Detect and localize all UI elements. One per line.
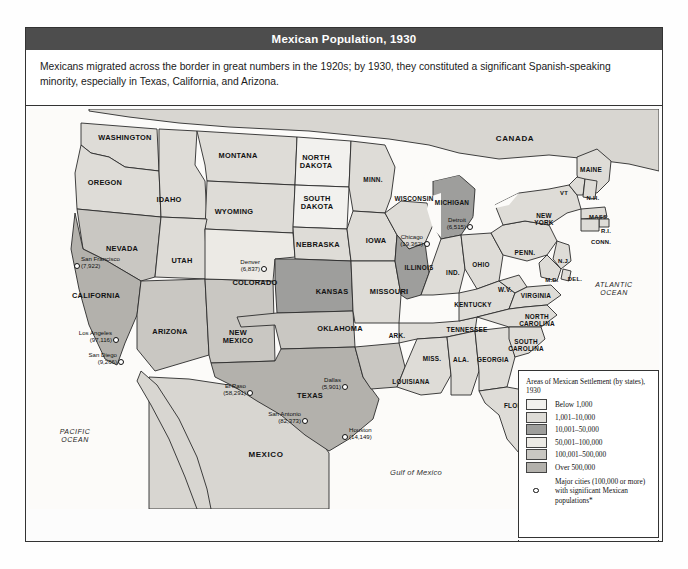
legend-class-label: Below 1,000	[555, 400, 592, 409]
city-label: Houston(14,149)	[349, 427, 372, 440]
city-population-text: (97,116)	[90, 336, 112, 343]
city-population-text: (19,362)	[400, 240, 423, 247]
city-label: Chicago(19,362)	[400, 234, 423, 247]
city-population-text: (9,266)	[98, 358, 117, 365]
legend-class-list: Below 1,0001,001–10,00010,001–50,00050,0…	[526, 399, 651, 473]
city-population-text: (6,515)	[447, 223, 466, 230]
city-label: Los Angeles(97,116)	[79, 330, 112, 343]
legend-row: 50,001–100,000	[526, 437, 651, 448]
legend-row: 1,001–10,000	[526, 412, 651, 423]
figure-page: Mexican Population, 1930 Mexicans migrat…	[0, 0, 688, 569]
legend-city-entry: Major cities (100,000 or more) with sign…	[526, 477, 651, 506]
city-dot-icon	[118, 359, 124, 365]
legend-swatch	[526, 424, 547, 435]
legend-swatch	[526, 399, 547, 410]
legend-class-label: 1,001–10,000	[555, 413, 595, 422]
city-population-text: (5,901)	[322, 383, 341, 390]
city-label: Detroit(6,515)	[447, 217, 466, 230]
legend-row: 10,001–50,000	[526, 424, 651, 435]
city-dot-icon	[302, 418, 308, 424]
city-population-text: (14,149)	[349, 433, 372, 440]
legend-class-label: Over 500,000	[555, 463, 595, 472]
legend-class-label: 100,001–500,000	[555, 450, 606, 459]
legend-row: Below 1,000	[526, 399, 651, 410]
legend-class-label: 10,001–50,000	[555, 425, 599, 434]
city-label: San Antonio(82,373)	[268, 411, 301, 424]
city-population-text: (7,922)	[81, 262, 100, 269]
city-label: El Paso(58,291)	[223, 383, 246, 396]
city-label: San Diego(9,266)	[89, 352, 117, 365]
city-dot-icon	[342, 384, 348, 390]
legend-footnote-box: *Population totals include Mexicans born…	[518, 540, 659, 541]
city-population-text: (82,373)	[278, 417, 301, 424]
legend-swatch	[526, 462, 547, 473]
figure-title: Mexican Population, 1930	[26, 28, 662, 50]
legend-row: 100,001–500,000	[526, 449, 651, 460]
map-area: .s{stroke:#2b2b2b;stroke-width:.9;stroke…	[26, 106, 662, 541]
city-dot-icon	[247, 390, 253, 396]
city-dot-icon	[467, 224, 473, 230]
legend-title: Areas of Mexican Settlement (by states),…	[526, 377, 651, 395]
city-dot-icon	[74, 263, 80, 269]
legend-swatch	[526, 437, 547, 448]
figure-frame: Mexican Population, 1930 Mexicans migrat…	[25, 27, 663, 542]
city-label: San Francisco(7,922)	[81, 256, 120, 269]
city-population-text: (6,837)	[241, 265, 260, 272]
legend-city-label: Major cities (100,000 or more) with sign…	[555, 477, 651, 506]
city-dot-icon	[342, 434, 348, 440]
city-population-text: (58,291)	[223, 389, 246, 396]
city-dot-icon	[424, 241, 430, 247]
legend-swatch	[526, 412, 547, 423]
legend-row: Over 500,000	[526, 462, 651, 473]
city-label: Dallas(5,901)	[322, 377, 341, 390]
figure-caption: Mexicans migrated across the border in g…	[26, 50, 662, 106]
figure-title-bar: Mexican Population, 1930	[26, 28, 662, 50]
legend-swatch	[526, 449, 547, 460]
city-dot-icon	[113, 337, 119, 343]
legend-class-label: 50,001–100,000	[555, 438, 602, 447]
city-dot-icon	[261, 266, 267, 272]
city-label: Denver(6,837)	[240, 259, 260, 272]
legend-city-circle-icon	[526, 477, 547, 503]
map-legend: Areas of Mexican Settlement (by states),…	[518, 370, 659, 538]
